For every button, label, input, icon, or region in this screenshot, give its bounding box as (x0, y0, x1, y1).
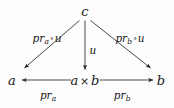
commutative-diagram-figure: c a a×b b pra∘u u prb∘u pra prb (0, 0, 174, 108)
product-right-operand: b (91, 73, 100, 88)
edge-label-pra: pra (40, 90, 56, 101)
edge-label-subscript: a (52, 94, 56, 103)
edge-label-subscript: b (126, 94, 131, 103)
edge-label-pra-compose-u: pra∘u (33, 33, 62, 44)
edge-label-base: pr (33, 32, 45, 44)
times-operator-icon: × (79, 75, 91, 88)
arrow-c-to-b (91, 21, 151, 69)
edge-label-base: pr (115, 32, 127, 44)
edge-label-rest: u (55, 32, 62, 44)
node-a: a (8, 74, 16, 87)
composition-operator-icon: ∘ (132, 34, 138, 43)
edge-label-u: u (90, 45, 97, 56)
node-b: b (157, 74, 166, 87)
edge-label-prb-compose-u: prb∘u (115, 33, 144, 44)
product-left-operand: a (71, 73, 79, 88)
composition-operator-icon: ∘ (49, 34, 55, 43)
edge-label-base: pr (40, 89, 52, 101)
node-product-a-times-b: a×b (71, 74, 100, 87)
edge-label-rest: u (138, 32, 145, 44)
edge-label-prb: prb (114, 90, 131, 101)
edge-label-base: pr (114, 89, 126, 101)
arrow-c-to-a (25, 21, 80, 69)
node-c: c (81, 5, 88, 18)
